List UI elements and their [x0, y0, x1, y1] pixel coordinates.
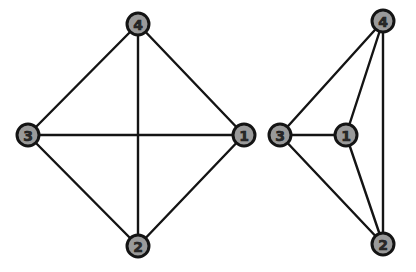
- graph-diagram: 12341234: [0, 0, 416, 272]
- k4-square-embedding-edges: [28, 24, 244, 246]
- edge-3-2: [280, 135, 383, 244]
- node-2: 2: [127, 235, 149, 257]
- edge-4-3: [280, 21, 383, 135]
- node-label: 4: [133, 17, 143, 33]
- node-label: 2: [133, 239, 143, 255]
- node-label: 4: [378, 14, 388, 30]
- node-label: 3: [275, 128, 285, 144]
- node-1: 1: [233, 124, 255, 146]
- node-3: 3: [269, 124, 291, 146]
- edge-4-1: [138, 24, 244, 135]
- node-4: 4: [127, 13, 149, 35]
- edges-layer: [28, 21, 383, 246]
- edge-4-3: [28, 24, 138, 135]
- nodes-layer: 12341234: [17, 10, 394, 257]
- node-4: 4: [372, 10, 394, 32]
- node-3: 3: [17, 124, 39, 146]
- k4-planar-embedding-edges: [280, 21, 383, 244]
- edge-1-2: [346, 135, 383, 244]
- edge-3-2: [28, 135, 138, 246]
- node-1: 1: [335, 124, 357, 146]
- edge-4-1: [346, 21, 383, 135]
- edge-1-2: [138, 135, 244, 246]
- node-label: 1: [341, 128, 351, 144]
- node-label: 2: [378, 237, 388, 253]
- node-2: 2: [372, 233, 394, 255]
- node-label: 3: [23, 128, 33, 144]
- node-label: 1: [239, 128, 249, 144]
